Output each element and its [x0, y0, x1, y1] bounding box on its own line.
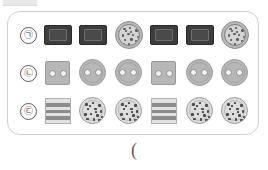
speckled-round-cookie[interactable]: [115, 21, 143, 49]
two-hole-square-cracker[interactable]: [151, 61, 176, 85]
two-hole-round-cracker[interactable]: [186, 59, 213, 86]
hole-dot: [236, 69, 243, 76]
hole-dot: [95, 69, 102, 76]
grid-cell[interactable]: [185, 58, 215, 88]
speckled-round-cookie[interactable]: [221, 21, 249, 49]
hole-dot: [130, 69, 137, 76]
hole-dot: [166, 70, 173, 77]
striped-wafer-square[interactable]: [45, 98, 71, 124]
grid-cell[interactable]: [78, 58, 108, 88]
two-hole-round-cracker[interactable]: [221, 59, 248, 86]
grid-cell[interactable]: [114, 20, 144, 50]
row-label-text: ㉢: [20, 103, 37, 120]
wafer-stripe: [46, 116, 70, 120]
bottom-caption: (: [0, 140, 268, 161]
row-cells: [43, 20, 252, 50]
grid-cell[interactable]: [220, 20, 250, 50]
wafer-stripe: [152, 110, 176, 113]
row-label-text: ㉡: [20, 65, 37, 82]
wafer-stripe: [46, 103, 70, 107]
striped-wafer-square[interactable]: [151, 98, 177, 124]
hole-dot: [49, 70, 56, 77]
chocolate-chip-round-cookie[interactable]: [221, 97, 248, 124]
brownie-rectangle[interactable]: [150, 25, 178, 45]
brownie-rectangle[interactable]: [44, 25, 72, 45]
chocolate-chip-round-cookie[interactable]: [79, 97, 106, 124]
row-label-giyeok[interactable]: ㉠: [16, 27, 40, 44]
hole-dot: [60, 70, 67, 77]
hole-dot: [155, 70, 162, 77]
hole-dot: [225, 69, 232, 76]
grid-cell[interactable]: [149, 96, 179, 126]
row-label-nieun[interactable]: ㉡: [16, 65, 40, 82]
two-hole-round-cracker[interactable]: [115, 59, 142, 86]
grid-cell[interactable]: [149, 58, 179, 88]
grid-cell[interactable]: [114, 58, 144, 88]
hole-pair: [80, 60, 105, 85]
grid-cell[interactable]: [43, 58, 73, 88]
hole-dot: [84, 69, 91, 76]
row-label-digeut[interactable]: ㉢: [16, 103, 40, 120]
chocolate-chip-round-cookie[interactable]: [115, 97, 142, 124]
wafer-stripe: [152, 116, 176, 120]
item-grid: ㉠㉡㉢: [8, 12, 258, 134]
speckle-texture: [225, 25, 245, 45]
hole-dot: [119, 69, 126, 76]
hole-pair: [152, 62, 175, 84]
choices-panel: ㉠㉡㉢: [7, 11, 259, 135]
item-row: ㉢: [12, 92, 252, 130]
wafer-stripe: [46, 110, 70, 113]
item-row: ㉡: [12, 54, 252, 92]
grid-cell[interactable]: [43, 96, 73, 126]
wafer-stripe: [152, 103, 176, 107]
grid-cell[interactable]: [114, 96, 144, 126]
row-cells: [43, 58, 252, 88]
hole-dot: [201, 69, 208, 76]
grid-cell[interactable]: [78, 96, 108, 126]
grid-cell[interactable]: [149, 20, 179, 50]
row-label-text: ㉠: [20, 27, 37, 44]
hole-pair: [222, 60, 247, 85]
hole-pair: [46, 62, 69, 84]
speckle-texture: [119, 25, 139, 45]
brownie-rectangle[interactable]: [79, 25, 107, 45]
item-row: ㉠: [12, 16, 252, 54]
hole-pair: [187, 60, 212, 85]
grid-cell[interactable]: [185, 20, 215, 50]
hole-pair: [116, 60, 141, 85]
brownie-rectangle[interactable]: [186, 25, 214, 45]
grid-cell[interactable]: [220, 58, 250, 88]
grid-cell[interactable]: [78, 20, 108, 50]
grid-cell[interactable]: [185, 96, 215, 126]
two-hole-square-cracker[interactable]: [45, 61, 70, 85]
chocolate-chip-round-cookie[interactable]: [186, 97, 213, 124]
top-crop-bar: [3, 0, 37, 6]
grid-cell[interactable]: [43, 20, 73, 50]
hole-dot: [190, 69, 197, 76]
two-hole-round-cracker[interactable]: [79, 59, 106, 86]
row-cells: [43, 96, 252, 126]
grid-cell[interactable]: [220, 96, 250, 126]
